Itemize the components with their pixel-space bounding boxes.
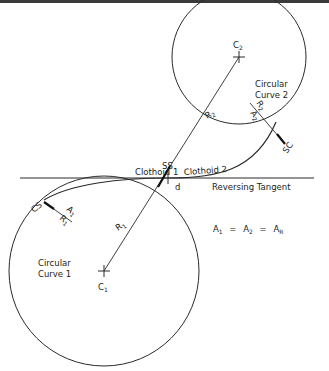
- label-circular-curve-1-line2: Curve 1: [38, 269, 71, 279]
- cs-offset-arrow: [44, 202, 54, 209]
- center-1-cross-icon: [98, 265, 110, 277]
- center-2-cross-icon: [233, 51, 245, 63]
- sc-offset-arrow: [277, 134, 285, 144]
- label-radius-1: R1: [113, 219, 127, 234]
- label-center-1: C1: [98, 282, 108, 293]
- label-cs: CS: [29, 200, 44, 215]
- label-d: d: [175, 182, 180, 192]
- label-ss: SS: [162, 161, 173, 171]
- reverse-curve-diagram: Circular Curve 2 Circular Curve 1 C2 C1 …: [0, 0, 329, 371]
- equation-a1-a2-ar: A1 = A2 = AR: [213, 224, 283, 236]
- label-circular-curve-2-line2: Curve 2: [255, 90, 288, 100]
- clothoid-1-curve: [44, 178, 168, 200]
- label-reversing-tangent: Reversing Tangent: [212, 182, 291, 192]
- label-center-2: C2: [233, 40, 243, 51]
- label-clothoid-2: Clothoid 2: [183, 164, 227, 177]
- label-circular-curve-1-line1: Circular: [38, 258, 71, 268]
- label-circular-curve-2-line1: Circular: [255, 79, 288, 89]
